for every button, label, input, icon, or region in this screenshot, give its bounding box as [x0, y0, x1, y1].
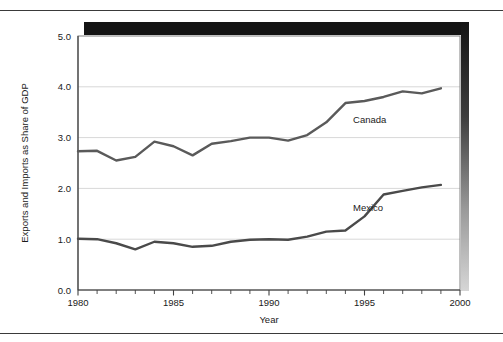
bottom-divider-rule: [0, 333, 503, 334]
y-tick-label: 0.0: [58, 285, 71, 296]
x-tick-label: 1995: [354, 297, 375, 308]
x-axis-ticks: [78, 290, 460, 296]
y-tick-label: 2.0: [58, 183, 71, 194]
y-axis-tick-labels: 0.01.02.03.04.05.0: [58, 31, 71, 296]
series-label-canada: Canada: [353, 114, 387, 125]
y-tick-label: 1.0: [58, 234, 71, 245]
x-tick-label: 1985: [163, 297, 184, 308]
figure-container: 19801985199019952000 0.01.02.03.04.05.0 …: [0, 0, 503, 342]
plot-background: [78, 36, 460, 290]
x-tick-label: 1990: [258, 297, 279, 308]
y-axis-title: Exports and Imports as Share of GDP: [19, 83, 30, 242]
top-divider-rule: [0, 10, 503, 11]
series-label-mexico: Mexico: [353, 202, 383, 213]
line-chart: 19801985199019952000 0.01.02.03.04.05.0 …: [0, 0, 503, 342]
y-tick-label: 5.0: [58, 31, 71, 42]
y-tick-label: 4.0: [58, 81, 71, 92]
x-tick-label: 2000: [449, 297, 470, 308]
y-tick-label: 3.0: [58, 132, 71, 143]
x-axis-title: Year: [259, 314, 278, 325]
x-tick-label: 1980: [67, 297, 88, 308]
x-axis-tick-labels: 19801985199019952000: [67, 297, 470, 308]
